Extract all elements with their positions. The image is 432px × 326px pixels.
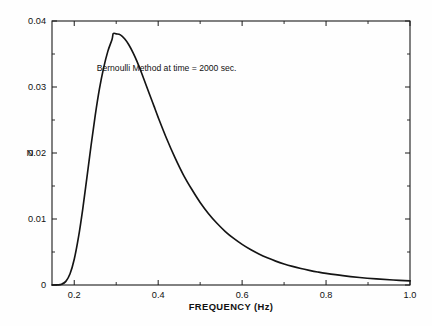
x-tick-label: 0.4 — [152, 290, 165, 300]
x-tick-label: 0.6 — [236, 290, 249, 300]
y-tick-label: 0.01 — [28, 214, 46, 224]
figure-container: 0.20.40.60.81.0 00.010.020.030.04 N FREQ… — [0, 0, 432, 326]
x-tick-label: 0.2 — [68, 290, 81, 300]
x-tick-label: 1.0 — [404, 290, 417, 300]
x-axis-label: FREQUENCY (Hz) — [189, 301, 274, 312]
x-tick-label: 0.8 — [320, 290, 333, 300]
line-chart: 0.20.40.60.81.0 00.010.020.030.04 N FREQ… — [0, 0, 432, 326]
chart-background — [0, 0, 432, 326]
y-tick-label: 0.03 — [28, 82, 46, 92]
chart-annotation: Bernoulli Method at time = 2000 sec. — [97, 63, 237, 73]
y-axis-label: N — [27, 147, 34, 158]
y-tick-label: 0 — [41, 280, 46, 290]
y-tick-label: 0.04 — [28, 16, 46, 26]
